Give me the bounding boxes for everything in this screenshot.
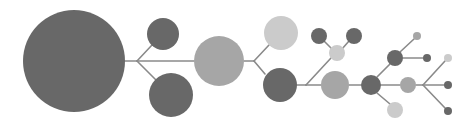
connector-line [324,41,332,49]
node-circle-n16 [400,77,416,93]
connector-line [377,93,390,104]
node-circle-n17 [444,54,452,62]
node-circle-n4 [194,36,244,86]
connector-line [137,61,156,80]
node-circle-n13 [413,32,421,40]
node-circle-n14 [423,54,431,62]
node-circle-n9 [346,28,362,44]
connector-line [377,64,390,77]
node-circle-n1 [23,10,125,112]
connector-line [423,61,445,85]
node-circle-n5 [264,16,298,50]
node-circle-n15 [387,102,403,118]
node-circle-n11 [361,75,381,95]
connector-line [137,45,152,61]
node-circle-n12 [387,50,403,66]
node-circle-n10 [321,71,349,99]
connector-line [423,85,445,108]
connector-line [254,45,269,61]
branching-node-diagram [0,0,475,126]
node-circle-n3 [149,73,193,117]
node-circle-n6 [263,68,297,102]
connector-line [400,39,414,52]
node-circle-n19 [444,107,452,115]
node-circle-n7 [329,45,345,61]
node-circle-n8 [311,28,327,44]
node-circle-n18 [444,81,452,89]
connector-line [254,61,265,74]
node-circle-n2 [147,18,179,50]
